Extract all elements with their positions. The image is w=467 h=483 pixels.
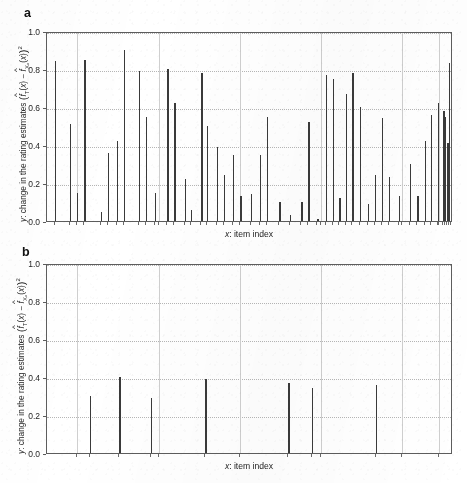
chart-bar <box>70 124 71 221</box>
chart-bar <box>333 79 334 222</box>
chart-bar <box>376 385 377 453</box>
y-tick-mark <box>43 32 46 33</box>
chart-bar <box>438 103 439 221</box>
chart-bar <box>382 118 383 221</box>
y-tick-label: 0.6 <box>14 104 40 112</box>
panel-a-plot-area <box>46 32 452 222</box>
x-tick-mark <box>307 222 308 225</box>
x-tick-mark <box>278 222 279 225</box>
y-tick-mark <box>43 70 46 71</box>
chart-bar <box>251 194 252 221</box>
panel-b-bars <box>47 265 451 453</box>
chart-bar <box>139 71 140 221</box>
panel-b-xlabel-text: : item index <box>229 461 273 471</box>
x-tick-mark <box>450 222 451 225</box>
x-tick-mark <box>332 222 333 225</box>
x-tick-mark <box>158 454 159 457</box>
y-tick-label: 0.4 <box>14 374 40 382</box>
x-tick-mark <box>259 222 260 225</box>
y-tick-label: 0.8 <box>14 66 40 74</box>
y-tick-mark <box>43 108 46 109</box>
x-tick-mark <box>320 222 321 225</box>
panel-b-plot-area <box>46 264 452 454</box>
y-tick-mark <box>43 264 46 265</box>
panel-b-x-axis-label: x: item index <box>46 461 452 471</box>
chart-bar <box>360 107 361 221</box>
x-tick-mark <box>116 222 117 225</box>
chart-bar <box>410 164 411 221</box>
chart-bar <box>279 202 280 221</box>
x-tick-mark <box>204 454 205 457</box>
y-tick-label: 0.2 <box>14 180 40 188</box>
x-tick-mark <box>100 222 101 225</box>
x-tick-mark <box>76 454 77 457</box>
chart-bar <box>77 193 78 222</box>
x-tick-mark <box>375 454 376 457</box>
chart-bar <box>90 396 91 453</box>
x-tick-mark <box>158 222 159 225</box>
chart-bar <box>240 196 241 221</box>
chart-bar <box>326 75 327 221</box>
chart-bar <box>217 147 218 221</box>
chart-bar <box>84 60 85 222</box>
y-tick-mark <box>43 454 46 455</box>
chart-bar <box>431 115 432 221</box>
x-tick-mark <box>311 454 312 457</box>
chart-bar <box>167 69 168 221</box>
chart-bar <box>290 215 291 221</box>
x-tick-mark <box>359 222 360 225</box>
x-tick-mark <box>367 222 368 225</box>
x-tick-mark <box>239 454 240 457</box>
panel-a-ylabel-text: : change in the rating estimates <box>18 103 28 218</box>
chart-bar <box>124 50 125 221</box>
chart-bar <box>55 61 56 221</box>
x-tick-mark <box>388 222 389 225</box>
x-tick-mark <box>287 454 288 457</box>
chart-bar <box>339 198 340 221</box>
y-tick-mark <box>43 340 46 341</box>
x-tick-mark <box>54 222 55 225</box>
y-tick-mark <box>43 184 46 185</box>
x-tick-mark <box>166 222 167 225</box>
y-tick-label: 0.8 <box>14 298 40 306</box>
x-tick-mark <box>442 222 443 225</box>
x-tick-mark <box>107 222 108 225</box>
x-tick-mark <box>381 222 382 225</box>
x-tick-mark <box>401 454 402 457</box>
x-tick-mark <box>83 222 84 225</box>
x-tick-mark <box>300 222 301 225</box>
y-tick-mark <box>43 378 46 379</box>
chart-bar <box>146 117 147 222</box>
x-tick-mark <box>320 454 321 457</box>
y-tick-label: 0.0 <box>14 450 40 458</box>
x-tick-mark <box>266 222 267 225</box>
x-tick-mark <box>250 222 251 225</box>
chart-bar <box>417 196 418 221</box>
y-tick-label: 0.2 <box>14 412 40 420</box>
panel-b: b y: change in the rating estimates (fT(… <box>0 242 467 483</box>
chart-bar <box>174 103 175 221</box>
panel-a-xlabel-text: : item index <box>229 229 273 239</box>
x-tick-mark <box>69 222 70 225</box>
x-tick-mark <box>76 222 77 225</box>
x-tick-mark <box>316 222 317 225</box>
x-tick-mark <box>239 222 240 225</box>
chart-bar <box>317 219 318 221</box>
x-tick-mark <box>184 222 185 225</box>
chart-bar <box>155 193 156 222</box>
chart-bar <box>260 155 261 222</box>
chart-bar <box>375 175 376 221</box>
x-tick-mark <box>438 222 439 225</box>
y-tick-mark <box>43 416 46 417</box>
x-tick-mark <box>206 222 207 225</box>
x-tick-mark <box>430 222 431 225</box>
x-tick-mark <box>123 222 124 225</box>
x-tick-mark <box>223 222 224 225</box>
chart-bar <box>389 177 390 221</box>
x-tick-mark <box>138 222 139 225</box>
chart-bar <box>425 141 426 221</box>
x-tick-mark <box>190 222 191 225</box>
x-tick-mark <box>200 222 201 225</box>
chart-bar <box>451 183 452 221</box>
chart-bar <box>368 204 369 221</box>
